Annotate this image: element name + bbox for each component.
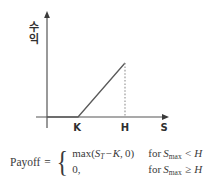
payoff-diagram: 수 익 K H S: [0, 0, 213, 140]
y-axis-label: 수 익: [26, 22, 42, 45]
payoff-case-value-out: 0,: [72, 163, 148, 175]
x-tick-label-strike: K: [67, 122, 87, 133]
payoff-case-condition-out: for Smax ≥ H: [148, 163, 202, 177]
payoff-formula: Payoff = { max(ST−K, 0) for Smax < H 0, …: [10, 142, 213, 182]
payoff-formula-lhs: Payoff =: [10, 156, 54, 168]
payoff-case-row: 0, for Smax ≥ H: [72, 163, 202, 177]
payoff-cases: max(ST−K, 0) for Smax < H 0, for Smax ≥ …: [72, 147, 202, 176]
payoff-line: [47, 63, 125, 117]
y-axis: [44, 11, 50, 128]
payoff-case-value-in: max(ST−K, 0): [72, 147, 148, 161]
payoff-case-condition-in: for Smax < H: [148, 147, 202, 161]
x-axis-label: S: [154, 122, 174, 133]
payoff-case-row: max(ST−K, 0) for Smax < H: [72, 147, 202, 161]
x-tick-label-barrier: H: [115, 122, 135, 133]
